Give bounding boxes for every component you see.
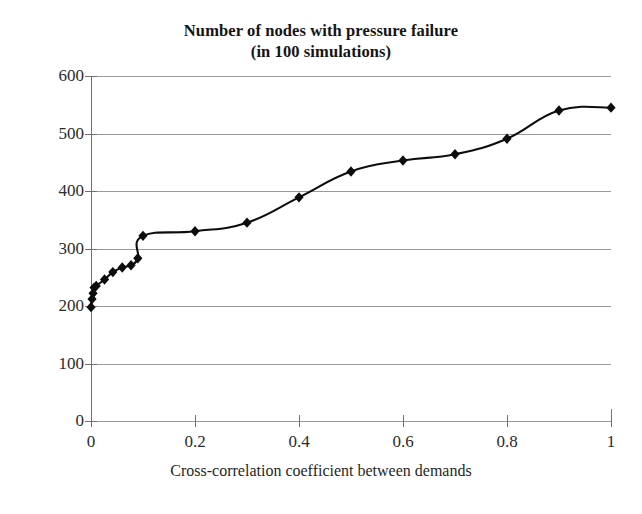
chart-title-line1: Number of nodes with pressure failure [184,21,458,40]
y-axis-tick [85,76,97,77]
x-axis-tick-label: 0.6 [373,432,433,452]
gridline-y [91,306,611,307]
gridline-y [91,134,611,135]
plot-area [91,76,611,421]
gridline-y [91,421,611,422]
y-axis-tick-label: 500 [26,125,84,142]
chart-title: Number of nodes with pressure failure (i… [0,20,642,62]
x-axis-tick-label: 1 [581,432,641,452]
y-axis-tick [85,191,97,192]
y-axis-tick-label: 300 [26,240,84,257]
x-axis-tick-label: 0 [61,432,121,452]
y-axis-tick [85,364,97,365]
gridline-y [91,249,611,250]
y-axis-tick [85,134,97,135]
y-axis-tick-label: 200 [26,297,84,314]
x-axis-title: Cross-correlation coefficient between de… [0,462,642,480]
x-axis-tick [611,415,612,427]
gridline-y [91,364,611,365]
x-axis-tick [91,415,92,427]
y-axis-tick [85,306,97,307]
y-axis-tick-label: 400 [26,182,84,199]
x-axis-tick [195,415,196,427]
x-axis-tick [507,415,508,427]
gridline-y [91,76,611,77]
chart-title-line2: (in 100 simulations) [0,41,642,62]
x-axis-tick-label: 0.4 [269,432,329,452]
chart-figure: Number of nodes with pressure failure (i… [0,0,642,514]
x-axis-tick-label: 0.8 [477,432,537,452]
x-axis-tick [299,415,300,427]
y-axis-tick-label: 0 [26,412,84,429]
y-axis-tick-label: 600 [26,67,84,84]
x-axis-tick [403,415,404,427]
y-axis-tick-label: 100 [26,355,84,372]
gridline-y [91,191,611,192]
x-axis-tick-label: 0.2 [165,432,225,452]
y-axis-tick [85,249,97,250]
